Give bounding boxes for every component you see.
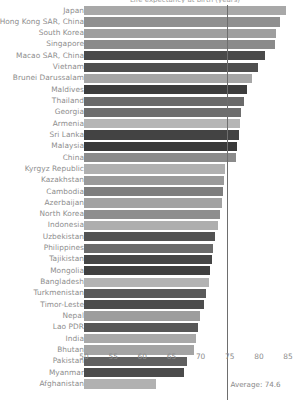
chart-row: Indonesia (0, 220, 289, 231)
bar-track (84, 300, 289, 309)
bar[interactable] (84, 119, 240, 128)
bar[interactable] (84, 164, 225, 173)
bar-track (84, 108, 289, 117)
bar-track (84, 289, 289, 298)
bar[interactable] (84, 255, 212, 264)
bar[interactable] (84, 40, 275, 49)
plot-area: JapanHong Kong SAR, ChinaSouth KoreaSing… (0, 5, 289, 349)
chart-row: Sri Lanka (0, 129, 289, 140)
bar[interactable] (84, 266, 210, 275)
bar-track (84, 244, 289, 253)
bar[interactable] (84, 108, 241, 117)
category-label: Bangladesh (0, 277, 84, 287)
bar[interactable] (84, 198, 222, 207)
bar[interactable] (84, 6, 286, 15)
bar[interactable] (84, 153, 236, 162)
bar[interactable] (84, 323, 198, 332)
bar-track (84, 334, 289, 343)
bar[interactable] (84, 176, 224, 185)
bar-track (84, 97, 289, 106)
x-axis-tick: 50 (74, 352, 94, 362)
bar-track (84, 278, 289, 287)
bar-track (84, 119, 289, 128)
category-label: Maldives (0, 85, 84, 95)
bar[interactable] (84, 221, 218, 230)
category-label: Afghanistan (0, 379, 84, 389)
x-axis-tick: 70 (191, 352, 211, 362)
chart-row: Lao PDR (0, 322, 289, 333)
bar-track (84, 153, 289, 162)
x-axis-tick: 80 (249, 352, 269, 362)
chart-row: Singapore (0, 39, 289, 50)
chart-row: Vietnam (0, 62, 289, 73)
category-label: Philippines (0, 243, 84, 253)
chart-row: Maldives (0, 84, 289, 95)
bar[interactable] (84, 51, 265, 60)
bar-track (84, 6, 289, 15)
bar-track (84, 255, 289, 264)
chart-row: Bangladesh (0, 277, 289, 288)
bar[interactable] (84, 278, 209, 287)
chart-row: Thailand (0, 96, 289, 107)
chart-row: Georgia (0, 107, 289, 118)
bar[interactable] (84, 29, 276, 38)
chart-row: India (0, 333, 289, 344)
bar[interactable] (84, 244, 213, 253)
category-label: Kyrgyz Republic (0, 164, 84, 174)
chart-row: North Korea (0, 209, 289, 220)
bar-track (84, 266, 289, 275)
bar-track (84, 323, 289, 332)
bar[interactable] (84, 85, 247, 94)
bar-track (84, 198, 289, 207)
x-axis-tick: 55 (103, 352, 123, 362)
bar-track (84, 311, 289, 320)
bar[interactable] (84, 17, 280, 26)
bar-track (84, 164, 289, 173)
chart-row: Timor-Leste (0, 299, 289, 310)
bar-track (84, 29, 289, 38)
bar[interactable] (84, 368, 184, 377)
bar[interactable] (84, 334, 196, 343)
bar[interactable] (84, 187, 223, 196)
x-axis-tick: 60 (132, 352, 152, 362)
average-annotation: Average: 74.6 (230, 380, 280, 389)
category-label: Georgia (0, 107, 84, 117)
bar[interactable] (84, 232, 215, 241)
chart-row: Malaysia (0, 141, 289, 152)
chart-row: Kyrgyz Republic (0, 163, 289, 174)
category-label: Myanmar (0, 368, 84, 378)
bar[interactable] (84, 379, 156, 388)
category-label: Thailand (0, 96, 84, 106)
category-label: Indonesia (0, 220, 84, 230)
bar[interactable] (84, 97, 244, 106)
x-axis-tick: 65 (161, 352, 181, 362)
chart-row: Nepal (0, 310, 289, 321)
category-label: China (0, 153, 84, 163)
category-label: Azerbaijan (0, 198, 84, 208)
bar[interactable] (84, 130, 239, 139)
average-reference-line (227, 5, 228, 400)
bar[interactable] (84, 63, 258, 72)
bar[interactable] (84, 289, 206, 298)
bar-track (84, 51, 289, 60)
bar-track (84, 232, 289, 241)
category-label: South Korea (0, 28, 84, 38)
bar-track (84, 187, 289, 196)
chart-row: Tajikistan (0, 254, 289, 265)
chart-row: Myanmar (0, 367, 289, 378)
bar-track (84, 142, 289, 151)
category-label: Uzbekistan (0, 232, 84, 242)
category-label: Lao PDR (0, 322, 84, 332)
bar[interactable] (84, 311, 200, 320)
category-label: North Korea (0, 209, 84, 219)
bar[interactable] (84, 210, 220, 219)
category-label: Armenia (0, 119, 84, 129)
chart-row: Cambodia (0, 186, 289, 197)
bar[interactable] (84, 142, 237, 151)
bar-track (84, 17, 289, 26)
bar-track (84, 74, 289, 83)
category-label: Malaysia (0, 141, 84, 151)
bar[interactable] (84, 300, 204, 309)
bar-track (84, 40, 289, 49)
bar-track (84, 63, 289, 72)
